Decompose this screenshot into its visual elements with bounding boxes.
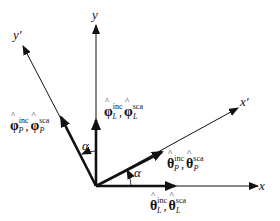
theta-P-label: θincP,θscaP bbox=[167, 155, 198, 173]
y-prime-axis-label: y′ bbox=[13, 28, 22, 41]
theta-P-vector bbox=[96, 152, 162, 186]
phi-P-label: φincP,φscaP bbox=[10, 117, 44, 135]
y-axis-label: y bbox=[92, 8, 98, 21]
rotation-diagram: x y x′ y′ α α φincL,φscaL φincP,φscaP θi… bbox=[0, 0, 280, 221]
alpha-label-lower: α bbox=[134, 166, 141, 179]
x-axis-label: x bbox=[259, 179, 265, 192]
alpha-arc-lower bbox=[127, 170, 131, 186]
alpha-label-upper: α bbox=[82, 139, 89, 152]
theta-L-label: θincL,θscaL bbox=[150, 197, 181, 215]
x-prime-axis-label: x′ bbox=[240, 95, 249, 108]
phi-L-label: φincL,φscaL bbox=[104, 103, 137, 121]
